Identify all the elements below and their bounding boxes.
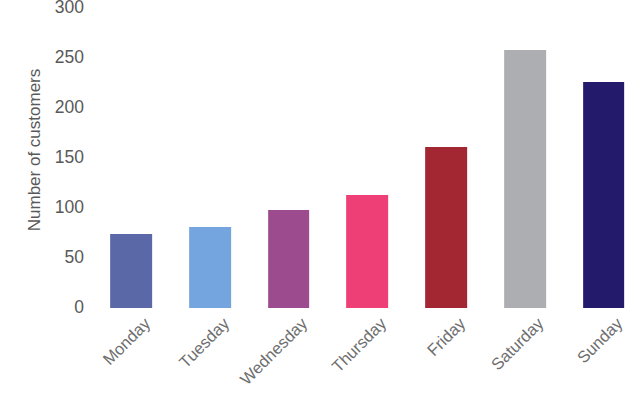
y-tick-label: 300: [22, 0, 84, 17]
x-label-slot: Thursday: [328, 308, 407, 405]
x-label-slot: Sunday: [564, 308, 643, 405]
bar-slot: [486, 8, 565, 308]
bar-slot: [407, 8, 486, 308]
x-label-slot: Monday: [92, 308, 171, 405]
x-label-slot: Saturday: [486, 308, 565, 405]
bar-slot: [249, 8, 328, 308]
bar-saturday[interactable]: [504, 50, 546, 308]
x-label-slot: Tuesday: [171, 308, 250, 405]
x-tick-label-monday: Monday: [99, 314, 154, 369]
bar-slot: [328, 8, 407, 308]
x-tick-label-thursday: Thursday: [328, 314, 390, 376]
x-axis-tick-labels: MondayTuesdayWednesdayThursdayFridaySatu…: [92, 308, 643, 405]
y-tick-label: 0: [22, 299, 84, 317]
x-tick-label-sunday: Sunday: [573, 314, 626, 367]
bar-tuesday[interactable]: [189, 227, 231, 308]
bar-slot: [92, 8, 171, 308]
y-axis-tick-labels: 050100150200250300: [22, 0, 84, 405]
bar-slot: [564, 8, 643, 308]
y-tick-label: 200: [22, 99, 84, 117]
bar-wednesday[interactable]: [268, 210, 310, 308]
y-tick-label: 50: [22, 249, 84, 267]
x-label-slot: Wednesday: [249, 308, 328, 405]
bar-sunday[interactable]: [583, 82, 625, 308]
x-tick-label-saturday: Saturday: [488, 314, 548, 374]
bar-chart: Number of customers 050100150200250300 M…: [0, 0, 643, 405]
x-tick-label-friday: Friday: [423, 314, 469, 360]
bar-slot: [171, 8, 250, 308]
x-label-slot: Friday: [407, 308, 486, 405]
x-tick-label-tuesday: Tuesday: [175, 314, 233, 372]
y-tick-label: 100: [22, 199, 84, 217]
bar-thursday[interactable]: [347, 195, 389, 308]
y-tick-label: 250: [22, 49, 84, 67]
plot-area: [92, 8, 643, 308]
bar-friday[interactable]: [425, 147, 467, 308]
y-tick-label: 150: [22, 149, 84, 167]
bar-monday[interactable]: [110, 234, 152, 308]
